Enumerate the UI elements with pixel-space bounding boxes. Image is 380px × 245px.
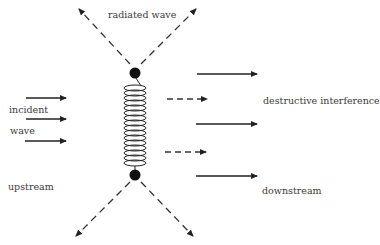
label-downstream: downstream <box>262 186 322 196</box>
radiated-arrow-down-right <box>141 182 193 236</box>
top-mass <box>130 68 141 79</box>
radiated-arrow-down-left <box>76 182 130 236</box>
downstream-dashed-arrows <box>165 99 207 152</box>
label-upstream: upstream <box>8 182 54 192</box>
label-radiated-wave: radiated wave <box>108 10 176 20</box>
coil-spring <box>124 85 146 166</box>
label-wave: wave <box>10 126 35 136</box>
radiated-arrows-bottom <box>76 182 193 236</box>
label-destructive-interference: destructive interference <box>263 96 380 106</box>
downstream-solid-arrows <box>196 74 257 176</box>
bottom-mass <box>130 170 141 181</box>
label-incident: incident <box>9 105 48 115</box>
